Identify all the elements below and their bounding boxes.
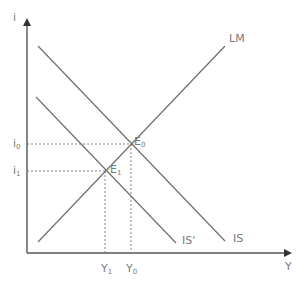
e0-sub: 0 — [141, 141, 145, 149]
is-prime-label: IS' — [182, 235, 195, 246]
lm-label: LM — [229, 33, 245, 44]
i1-sub: 1 — [16, 170, 20, 178]
y0-base: Y — [126, 262, 133, 275]
i0-sub: 0 — [16, 143, 20, 151]
y1-label: Y1 — [101, 263, 112, 276]
y1-base: Y — [101, 262, 108, 275]
is-lm-diagram — [0, 0, 304, 281]
e1-label: E1 — [110, 164, 121, 177]
y1-sub: 1 — [108, 268, 112, 276]
i0-label: i0 — [13, 138, 21, 151]
y-axis-label: i — [13, 12, 16, 23]
is-label: IS — [233, 233, 243, 244]
e0-base: E — [134, 135, 141, 148]
e0-label: E0 — [134, 136, 145, 149]
y0-label: Y0 — [126, 263, 137, 276]
e1-base: E — [110, 163, 117, 176]
x-axis-label: Y — [285, 261, 292, 272]
e1-sub: 1 — [117, 169, 121, 177]
i1-label: i1 — [13, 165, 21, 178]
y0-sub: 0 — [133, 268, 137, 276]
